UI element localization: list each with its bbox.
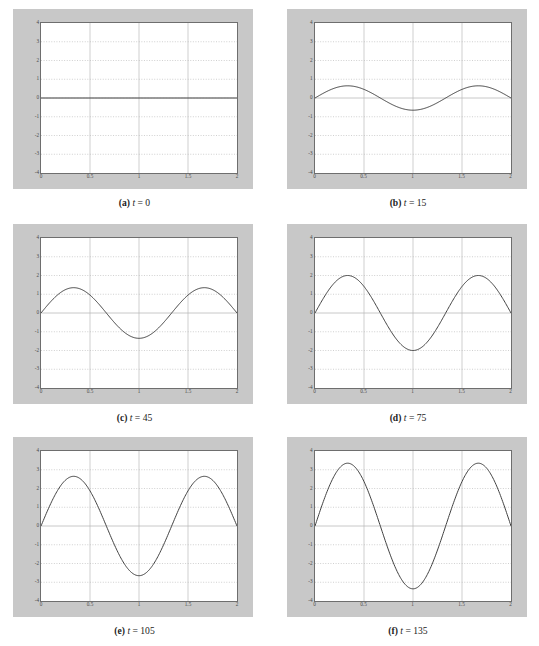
x-tick-label: 0.5 — [360, 389, 366, 394]
plot-area-e: 43210-1-2-3-400.511.52 — [40, 450, 238, 602]
y-tick-label: -1 — [308, 542, 312, 547]
y-tick-label: 0 — [310, 95, 313, 100]
panel-caption-c: (c) t = 45 — [0, 412, 269, 423]
plot-canvas-d — [315, 238, 511, 388]
caption-equals: = — [409, 412, 414, 423]
x-tick-label: 1 — [138, 602, 141, 607]
x-tick-label: 1.5 — [458, 389, 464, 394]
y-tick-label: -3 — [35, 367, 39, 372]
plot-area-a: 43210-1-2-3-400.511.52 — [40, 22, 238, 174]
caption-time-value: 0 — [145, 197, 150, 208]
x-tick-label: 0 — [313, 174, 316, 179]
y-tick-label: 2 — [36, 273, 39, 278]
caption-time-value: 45 — [143, 412, 153, 423]
figure-panel-d: 43210-1-2-3-400.511.52(d) t = 75 — [270, 215, 539, 428]
x-tick-label: 0.5 — [87, 389, 93, 394]
x-tick-label: 1.5 — [458, 602, 464, 607]
y-tick-label: 1 — [310, 505, 313, 510]
panel-caption-b: (b) t = 15 — [274, 197, 539, 208]
y-tick-label: -4 — [35, 598, 39, 603]
plot-mat-e: 43210-1-2-3-400.511.52 — [13, 437, 253, 617]
x-tick-label: 2 — [236, 602, 239, 607]
x-tick-label: 0 — [40, 174, 43, 179]
y-tick-label: 2 — [36, 486, 39, 491]
plot-canvas-e — [41, 451, 237, 601]
plot-mat-c: 43210-1-2-3-400.511.52 — [13, 224, 253, 404]
x-tick-label: 1.5 — [185, 174, 191, 179]
caption-variable: t — [130, 412, 133, 423]
x-tick-label: 0 — [313, 602, 316, 607]
y-tick-label: -3 — [35, 580, 39, 585]
y-tick-label: 0 — [310, 310, 313, 315]
plot-area-f: 43210-1-2-3-400.511.52 — [314, 450, 512, 602]
x-tick-label: 1 — [411, 602, 414, 607]
x-tick-label: 0 — [40, 602, 43, 607]
x-tick-label: 2 — [509, 389, 512, 394]
x-tick-label: 2 — [509, 602, 512, 607]
y-tick-label: 4 — [36, 20, 39, 25]
caption-variable: t — [404, 197, 407, 208]
plot-canvas-b — [315, 23, 511, 173]
y-tick-label: 4 — [36, 448, 39, 453]
plot-mat-a: 43210-1-2-3-400.511.52 — [13, 9, 253, 189]
x-tick-label: 1 — [138, 174, 141, 179]
panel-caption-f: (f) t = 135 — [274, 625, 539, 636]
caption-equals: = — [409, 197, 414, 208]
y-tick-label: 1 — [310, 77, 313, 82]
y-tick-label: -4 — [35, 385, 39, 390]
x-tick-label: 1.5 — [185, 389, 191, 394]
plot-mat-d: 43210-1-2-3-400.511.52 — [287, 224, 527, 404]
figure-panel-grid: 43210-1-2-3-400.511.52(a) t = 043210-1-2… — [0, 0, 539, 646]
caption-time-value: 15 — [417, 197, 427, 208]
y-tick-label: -4 — [308, 170, 312, 175]
y-tick-label: 1 — [36, 77, 39, 82]
y-tick-label: 0 — [36, 523, 39, 528]
y-tick-label: 3 — [310, 39, 313, 44]
y-tick-label: -2 — [35, 348, 39, 353]
caption-variable: t — [127, 625, 130, 636]
x-tick-label: 2 — [236, 174, 239, 179]
y-tick-label: -2 — [35, 133, 39, 138]
y-tick-label: 4 — [310, 20, 313, 25]
figure-panel-f: 43210-1-2-3-400.511.52(f) t = 135 — [270, 428, 539, 646]
y-tick-label: 4 — [36, 235, 39, 240]
y-tick-label: 4 — [310, 235, 313, 240]
caption-time-value: 135 — [413, 625, 427, 636]
figure-panel-e: 43210-1-2-3-400.511.52(e) t = 105 — [0, 428, 270, 646]
y-tick-label: 4 — [310, 448, 313, 453]
caption-equals: = — [132, 625, 137, 636]
panel-caption-d: (d) t = 75 — [274, 412, 539, 423]
y-tick-label: -3 — [308, 367, 312, 372]
y-tick-label: -4 — [308, 385, 312, 390]
y-tick-label: 2 — [36, 58, 39, 63]
y-tick-label: 2 — [310, 486, 313, 491]
x-tick-label: 0.5 — [360, 602, 366, 607]
caption-label: (f) — [388, 625, 398, 636]
y-tick-label: -2 — [35, 561, 39, 566]
x-tick-label: 1.5 — [185, 602, 191, 607]
figure-panel-b: 43210-1-2-3-400.511.52(b) t = 15 — [270, 0, 539, 215]
caption-label: (a) — [119, 197, 130, 208]
caption-label: (d) — [390, 412, 402, 423]
panel-caption-e: (e) t = 105 — [0, 625, 269, 636]
caption-label: (b) — [390, 197, 402, 208]
plot-area-d: 43210-1-2-3-400.511.52 — [314, 237, 512, 389]
figure-panel-c: 43210-1-2-3-400.511.52(c) t = 45 — [0, 215, 270, 428]
plot-canvas-a — [41, 23, 237, 173]
y-tick-label: 1 — [36, 292, 39, 297]
y-tick-label: 2 — [310, 273, 313, 278]
x-tick-label: 0 — [40, 389, 43, 394]
panel-caption-a: (a) t = 0 — [0, 197, 269, 208]
y-tick-label: -3 — [308, 152, 312, 157]
x-tick-label: 1 — [411, 389, 414, 394]
y-tick-label: -1 — [308, 114, 312, 119]
plot-canvas-c — [41, 238, 237, 388]
x-tick-label: 2 — [509, 174, 512, 179]
x-tick-label: 1.5 — [458, 174, 464, 179]
y-tick-label: 0 — [36, 95, 39, 100]
plot-mat-b: 43210-1-2-3-400.511.52 — [287, 9, 527, 189]
x-tick-label: 0.5 — [360, 174, 366, 179]
y-tick-label: 1 — [310, 292, 313, 297]
y-tick-label: -1 — [35, 542, 39, 547]
y-tick-label: 2 — [310, 58, 313, 63]
